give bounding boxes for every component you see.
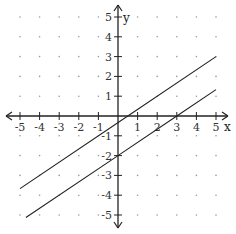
grid-dot [137,95,139,97]
grid-dot [98,76,100,78]
grid-dot [176,36,178,38]
grid-dot [78,16,80,18]
grid-dot [196,56,198,58]
grid-dot [137,175,139,177]
grid-dot [196,76,198,78]
grid-dot [176,214,178,216]
grid-dot [19,95,21,97]
grid-dot [78,214,80,216]
grid-dot [156,194,158,196]
grid-dot [156,36,158,38]
x-tick-label: -3 [54,121,65,134]
y-tick-label: -3 [101,169,112,182]
grid-dot [176,155,178,157]
grid-dot [176,16,178,18]
grid-dot [215,194,217,196]
grid-dot [196,214,198,216]
grid-dot [98,194,100,196]
grid-dot [156,76,158,78]
grid-dot [39,95,41,97]
grid-dot [137,56,139,58]
y-tick-label: 5 [105,11,112,24]
grid-dot [98,214,100,216]
grid-dot [215,36,217,38]
grid-dot [78,95,80,97]
grid-dot [39,76,41,78]
grid-dot [156,135,158,137]
x-axis-label: x [224,120,231,134]
grid-dot [19,194,21,196]
grid-dot [19,16,21,18]
grid-dot [39,135,41,137]
grid-dot [137,36,139,38]
grid-dot [176,135,178,137]
grid-dot [137,135,139,137]
grid-dot [19,56,21,58]
grid-dot [58,36,60,38]
grid-dot [98,36,100,38]
grid-dot [98,155,100,157]
grid-dot [176,95,178,97]
grid-dot [78,56,80,58]
grid-dot [58,76,60,78]
grid-dot [98,175,100,177]
y-tick-label: 1 [105,90,112,103]
grid-dot [19,175,21,177]
grid-dot [78,76,80,78]
grid-dot [215,155,217,157]
grid-dot [58,56,60,58]
y-tick-label: -5 [101,209,112,222]
grid-dot [215,76,217,78]
grid-dot [39,214,41,216]
grid-dot [156,175,158,177]
x-tick-label: 4 [193,121,200,134]
grid-dot [58,155,60,157]
grid-dot [78,155,80,157]
grid-dot [58,214,60,216]
grid-dot [176,56,178,58]
grid-dot [137,194,139,196]
grid-dot [137,155,139,157]
grid-dot [176,76,178,78]
grid-dot [137,214,139,216]
grid-dot [39,56,41,58]
grid-dot [215,16,217,18]
x-tick-label: 1 [134,121,141,134]
x-tick-label: -2 [73,121,84,134]
grid-dot [156,214,158,216]
x-tick-label: -5 [15,121,26,134]
grid-dot [215,135,217,137]
x-tick-label: -4 [34,121,45,134]
y-tick-label: 4 [105,31,112,44]
y-tick-label: -1 [101,130,112,143]
series-line-2 [26,90,216,218]
grid-dot [19,155,21,157]
grid-dot [78,135,80,137]
grid-dot [19,36,21,38]
grid-dot [78,194,80,196]
x-tick-label: 5 [213,121,220,134]
coordinate-plane: -5-4-3-2-11234554321-1-2-3-4-5 x y [0,0,236,234]
grid-dot [137,76,139,78]
grid-dot [58,95,60,97]
grid-dot [215,175,217,177]
grid-dot [215,95,217,97]
grid-dot [39,194,41,196]
grid-dot [137,16,139,18]
grid-dot [39,155,41,157]
grid-dot [156,56,158,58]
grid-dot [196,135,198,137]
grid-dot [176,175,178,177]
grid-dot [196,175,198,177]
grid-dot [58,16,60,18]
grid-dot [98,16,100,18]
grid-dot [19,135,21,137]
grid-dot [196,194,198,196]
grid-dot [39,16,41,18]
grid-dot [176,194,178,196]
y-tick-label: 2 [105,70,112,83]
grid-dot [196,155,198,157]
grid-dot [196,36,198,38]
grid-dot [215,214,217,216]
y-axis-label: y [122,11,130,25]
